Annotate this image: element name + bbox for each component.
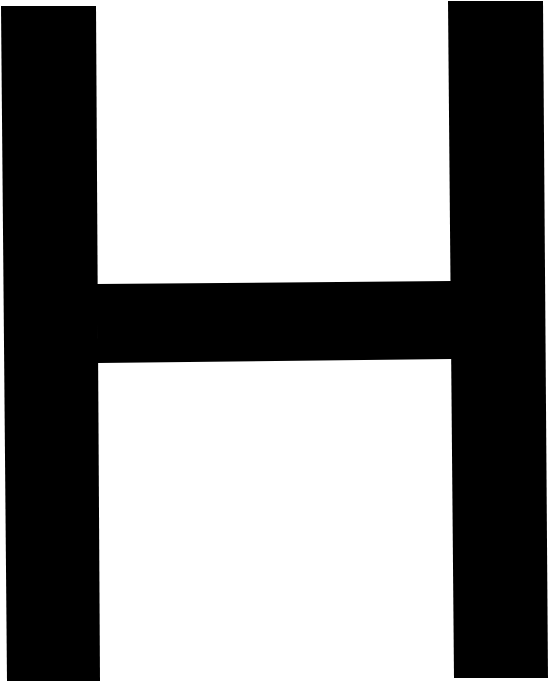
letter-h-glyph	[0, 0, 550, 686]
h-left-stem	[1, 6, 100, 681]
letter-h-image: H	[0, 0, 550, 686]
h-right-stem	[448, 1, 548, 678]
h-crossbar	[96, 281, 452, 363]
